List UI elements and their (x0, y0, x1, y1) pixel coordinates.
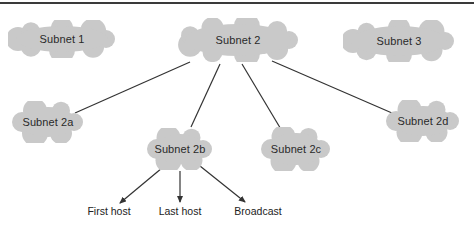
cloud-label: Subnet 2c (261, 127, 331, 171)
cloud-label: Subnet 2b (147, 128, 213, 170)
cloud-label: Subnet 2a (12, 101, 84, 143)
cloud-subnet1: Subnet 1 (8, 20, 116, 58)
edge-subnet2-subnet2a (75, 62, 190, 113)
cloud-label: Subnet 3 (343, 20, 455, 62)
cloud-subnet3: Subnet 3 (343, 20, 455, 62)
cloud-label: Subnet 2d (386, 100, 460, 142)
cloud-subnet2d: Subnet 2d (386, 100, 460, 142)
host-label-first-host: First host (87, 205, 130, 217)
edge-subnet2-subnet2b (191, 64, 220, 127)
cloud-subnet2c: Subnet 2c (261, 127, 331, 171)
cloud-label: Subnet 1 (8, 20, 116, 58)
cloud-subnet2: Subnet 2 (177, 18, 299, 62)
edge-subnet2-subnet2d (272, 61, 392, 113)
host-label-broadcast: Broadcast (234, 205, 281, 217)
cloud-label: Subnet 2 (177, 18, 299, 62)
arrow-first_host (120, 168, 162, 203)
arrow-broadcast (200, 166, 245, 202)
cloud-subnet2a: Subnet 2a (12, 101, 84, 143)
host-label-last-host: Last host (159, 205, 202, 217)
cloud-subnet2b: Subnet 2b (147, 128, 213, 170)
edge-subnet2-subnet2c (242, 64, 282, 131)
